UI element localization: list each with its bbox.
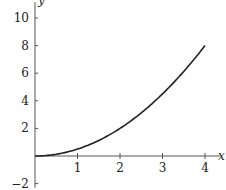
y-tick-label: 2 — [21, 121, 29, 135]
y-tick-label: 4 — [21, 94, 29, 108]
x-tick-label: 1 — [74, 161, 82, 175]
x-tick-label: 4 — [201, 161, 209, 175]
x-tick-label: 2 — [116, 161, 124, 175]
ticks — [35, 18, 205, 184]
x-axis-label: x — [218, 149, 225, 163]
y-tick-label: −2 — [11, 177, 29, 190]
y-tick-label: 10 — [14, 11, 29, 25]
x-tick-label: 3 — [159, 161, 167, 175]
y-tick-label: 6 — [21, 66, 29, 80]
y-axis-label: y — [37, 0, 45, 7]
y-tick-label: 8 — [21, 39, 29, 53]
function-curve — [35, 46, 205, 156]
function-plot: 1234−2246810 x y — [0, 0, 226, 190]
tick-labels: 1234−2246810 — [11, 11, 209, 190]
axes — [35, 2, 220, 188]
